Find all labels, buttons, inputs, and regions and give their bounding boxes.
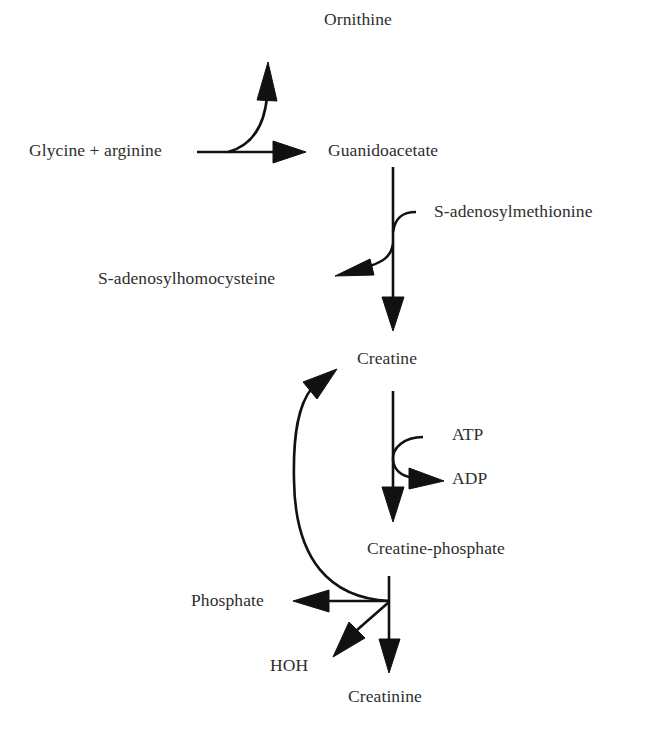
node-ornithine: Ornithine (324, 11, 392, 29)
node-s-adenosylhomocysteine: S-adenosylhomocysteine (98, 270, 275, 288)
arrow-atp-to-adp (393, 437, 444, 489)
node-hoh: HOH (270, 657, 308, 675)
arrow-to-ornithine (228, 62, 277, 152)
node-creatine: Creatine (357, 350, 417, 368)
node-atp: ATP (452, 426, 483, 444)
pathway-arrows (0, 0, 646, 731)
node-adp: ADP (452, 470, 487, 488)
arrow-creatine-phosphate-to-creatinine (379, 576, 400, 673)
arrow-s-adenosylmethionine-in (393, 212, 416, 232)
node-phosphate: Phosphate (191, 592, 264, 610)
node-guanidoacetate: Guanidoacetate (328, 142, 438, 160)
node-creatine-phosphate: Creatine-phosphate (367, 540, 505, 558)
arrow-to-phosphate (293, 590, 389, 612)
creatine-pathway-diagram: Ornithine Glycine + arginine Guanidoacet… (0, 0, 646, 731)
arrow-glycine-to-guanidoacetate (197, 141, 306, 163)
node-creatinine: Creatinine (348, 688, 422, 706)
node-s-adenosylmethionine: S-adenosylmethionine (434, 203, 593, 221)
node-glycine-arginine: Glycine + arginine (29, 142, 162, 160)
arrow-phosphate-to-creatine (294, 369, 389, 601)
arrowhead-s-adenosylhomocysteine (335, 259, 374, 276)
arrow-to-hoh (333, 602, 389, 657)
arrow-s-adenosylhomocysteine-out (370, 244, 393, 266)
